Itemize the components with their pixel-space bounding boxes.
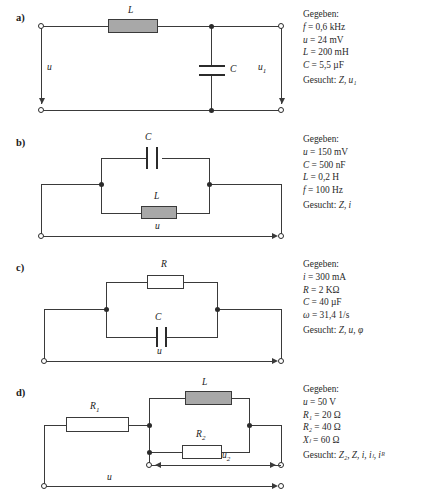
wire-d-r1-left	[44, 425, 66, 426]
wire-d-r2-left	[149, 452, 182, 453]
node-d-lower	[147, 450, 152, 455]
arrow-a-u1	[279, 98, 285, 104]
arrow-d-u2-left	[155, 462, 161, 468]
wire-c-left-vertical	[44, 309, 45, 362]
capacitor-c-plate-right	[165, 327, 167, 347]
wire-b-left-vertical	[41, 184, 42, 237]
voltage-label-a-u: u	[47, 61, 52, 72]
panel-b-heading: Gegeben:	[303, 133, 428, 146]
panel-c-given-0: i = 300 mA	[303, 271, 428, 284]
panel-c-heading: Gegeben:	[303, 258, 428, 271]
terminal-b-right	[278, 233, 284, 239]
resistor-c-label: R	[161, 258, 167, 269]
node-c-right	[215, 307, 220, 312]
panel-b-given-1: C = 500 nF	[303, 159, 428, 172]
problem-c: c) R C u Gegeben: i = 300 mA R = 2 KΩ C …	[0, 250, 428, 375]
panel-c-sought: Gesucht: Z, u, φ	[303, 324, 428, 337]
wire-b-outer-left	[41, 184, 102, 185]
panel-b-sought: Gesucht: Z, i	[303, 199, 428, 212]
wire-a-bottom	[41, 110, 282, 111]
wire-c-cap-left	[106, 337, 156, 338]
capacitor-b-label: C	[145, 131, 151, 142]
problem-label-b: b)	[16, 137, 25, 148]
inductor-d-label: L	[202, 376, 207, 387]
panel-a-heading: Gegeben:	[303, 8, 428, 21]
wire-d-right-vertical	[281, 425, 282, 466]
panel-b-given-2: L = 0,2 H	[303, 171, 428, 184]
panel-a-given-2: L = 200 mH	[303, 46, 428, 59]
wire-d-u2-line	[149, 465, 281, 466]
panel-d-given-2: R₂ = 40 Ω	[303, 421, 428, 434]
capacitor-b-plate-right	[156, 147, 158, 169]
problem-d: d) R1 L R2 u u2 Gegeben: u = 50 V R₁ = 2…	[0, 375, 428, 503]
arrow-c-u	[272, 358, 278, 364]
wire-c-res-right	[184, 282, 218, 283]
panel-d-given-0: u = 50 V	[303, 396, 428, 409]
resistor-d-r2-label: R2	[196, 428, 205, 442]
voltage-label-c-u: u	[157, 345, 162, 356]
terminal-d-bottom-right	[278, 483, 284, 489]
capacitor-c-plate-left	[156, 327, 158, 347]
wire-b-cap-left	[101, 158, 146, 159]
wire-b-outer-right	[209, 184, 282, 185]
wire-c-outer-right	[217, 309, 282, 310]
inductor-b	[141, 206, 177, 219]
voltage-label-b-u: u	[155, 220, 160, 231]
problem-label-c: c)	[16, 262, 24, 273]
wire-b-right-vertical	[281, 184, 282, 237]
terminal-a-bottom-right	[278, 107, 284, 113]
wire-d-left-vertical	[44, 425, 45, 487]
arrow-a-u	[39, 98, 45, 104]
panel-c: Gegeben: i = 300 mA R = 2 KΩ C = 40 µF ω…	[303, 258, 428, 337]
panel-d: Gegeben: u = 50 V R₁ = 20 Ω R₂ = 40 Ω Xₗ…	[303, 383, 428, 462]
terminal-a-top-right	[278, 23, 284, 29]
node-a-top	[209, 24, 214, 29]
wire-c-cap-right	[167, 337, 218, 338]
inductor-a-label: L	[128, 4, 133, 15]
wire-a-right-vertical	[281, 26, 282, 104]
wire-b-bottom	[41, 236, 275, 237]
arrow-d-u2-right	[270, 462, 276, 468]
wire-a-top-left	[41, 26, 108, 27]
resistor-d-r1-label: R1	[90, 400, 99, 414]
problem-label-d: d)	[16, 387, 25, 398]
node-d-right	[247, 423, 252, 428]
problem-label-a: a)	[16, 12, 25, 23]
wire-a-cap-upper	[211, 26, 212, 66]
terminal-c-left	[41, 358, 47, 364]
panel-d-heading: Gegeben:	[303, 383, 428, 396]
wire-c-right-vertical	[281, 309, 282, 362]
panel-b: Gegeben: u = 150 mV C = 500 nF L = 0,2 H…	[303, 133, 428, 212]
node-b-left	[99, 182, 104, 187]
arrow-d-u	[272, 483, 278, 489]
panel-a-given-0: f = 0,6 kHz	[303, 21, 428, 34]
problem-a: a) L C u u1 Gegeben: f = 0,6 kHz u = 24 …	[0, 0, 428, 125]
wire-b-ind-right	[176, 213, 210, 214]
panel-a: Gegeben: f = 0,6 kHz u = 24 mV L = 200 m…	[303, 8, 428, 87]
panel-b-given-0: u = 150 mV	[303, 146, 428, 159]
terminal-a-bottom-left	[38, 107, 44, 113]
voltage-label-a-u1: u1	[258, 61, 266, 75]
voltage-label-d-u: u	[107, 471, 112, 482]
node-c-left	[104, 307, 109, 312]
panel-c-given-2: C = 40 µF	[303, 296, 428, 309]
resistor-d-r1	[66, 417, 129, 432]
wire-d-r1-right	[129, 425, 149, 426]
resistor-d-r2	[182, 445, 222, 459]
terminal-d-bottom-left	[41, 483, 47, 489]
wire-b-cap-right	[162, 158, 210, 159]
inductor-b-label: L	[154, 190, 159, 201]
terminal-b-left	[38, 233, 44, 239]
wire-d-bottom	[44, 486, 275, 487]
panel-c-given-3: ω = 31,4 1/s	[303, 309, 428, 322]
wire-a-cap-lower	[211, 75, 212, 111]
wire-c-bottom	[44, 361, 275, 362]
node-b-right	[207, 182, 212, 187]
wire-c-outer-left	[44, 309, 107, 310]
panel-a-sought: Gesucht: Z, u₁	[303, 74, 428, 87]
panel-a-given-1: u = 24 mV	[303, 34, 428, 47]
capacitor-a-label: C	[230, 63, 236, 74]
terminal-d-u2-left	[146, 462, 152, 468]
capacitor-a-plate-bottom	[199, 74, 225, 76]
resistor-c	[147, 275, 184, 289]
